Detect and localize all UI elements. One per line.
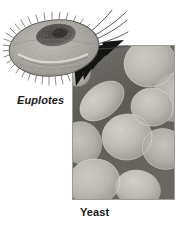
euplotes-illustration xyxy=(4,8,128,94)
euplotes-label: Euplotes xyxy=(17,94,64,106)
yeast-label: Yeast xyxy=(80,206,109,218)
figure-root: Euplotes Yeast xyxy=(0,0,188,225)
euplotes-organism xyxy=(4,8,128,94)
